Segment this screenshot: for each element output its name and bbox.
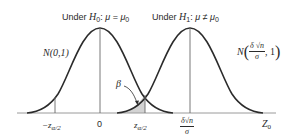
tick-delta-sqrt-n-over-sigma: δ√n σ [180, 117, 194, 136]
diagram-graphics [0, 0, 292, 139]
h1-mu0-sub: 0 [215, 16, 219, 23]
h1-title: Under H1: μ ≠ μ0 [152, 12, 219, 23]
h1-distribution-label: N ( δ √n σ , 1 ) [237, 42, 280, 61]
h0-mu0-sub: 0 [125, 16, 129, 23]
h1-dist-denominator: σ [255, 52, 259, 61]
axis-label-z0: Z0 [262, 119, 271, 131]
h1-colon: : [190, 12, 193, 22]
tick-z-alpha: zα/2 [134, 121, 147, 132]
h1-dist-close-paren: ) [275, 44, 280, 60]
h0-title: Under H0: μ = μ0 [62, 12, 129, 23]
h1-dist-N: N [237, 47, 244, 57]
tick-z-sub: α/2 [138, 124, 147, 132]
h0-colon: : [100, 12, 103, 22]
tick-neg-z-alpha: −zα/2 [42, 121, 61, 132]
h1-operator: ≠ [203, 12, 208, 22]
beta-label: β [116, 79, 121, 89]
h0-title-prefix: Under [62, 12, 89, 22]
power-beta-diagram: Under H0: μ = μ0 Under H1: μ ≠ μ0 N(0,1)… [0, 0, 292, 139]
tick-shift-fraction: δ√n σ [180, 117, 194, 136]
h1-dist-variance: , 1 [265, 47, 275, 57]
h0-mu: μ [105, 12, 110, 22]
h0-distribution-label: N(0,1) [43, 48, 69, 58]
beta-pointer-arrow [124, 86, 137, 103]
h0-distribution-text: N(0,1) [43, 47, 69, 58]
tick-neg-z-sub: α/2 [52, 124, 61, 132]
tick-shift-numerator: δ√n [180, 117, 194, 127]
beta-shaded-region [118, 95, 145, 113]
h1-title-prefix: Under [152, 12, 179, 22]
h1-dist-numerator: δ √n [249, 42, 265, 52]
tick-zero: 0 [97, 120, 102, 129]
axis-label-sub: 0 [268, 123, 272, 131]
tick-neg-z-main: −z [42, 120, 52, 130]
h1-mu: μ [195, 12, 200, 22]
h1-dist-fraction: δ √n σ [249, 42, 265, 61]
tick-shift-denominator: σ [185, 127, 189, 136]
h0-operator: = [113, 12, 118, 22]
